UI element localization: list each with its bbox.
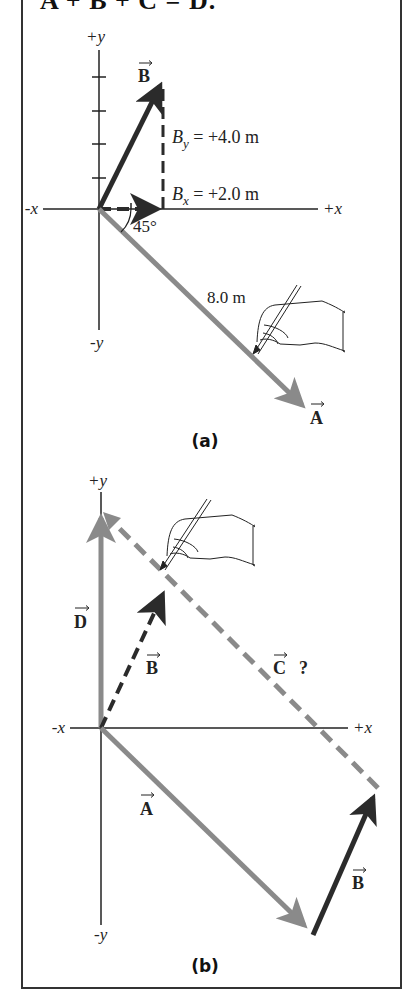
svg-text:B: B xyxy=(146,658,158,678)
minus-x-label-a: -x xyxy=(25,199,39,218)
plus-y-label-a: +y xyxy=(86,27,105,46)
hand-pencil-icon-b xyxy=(160,499,255,570)
bx-label: Bx = +2.0 m xyxy=(172,184,259,208)
svg-text:A: A xyxy=(140,799,153,819)
vector-b-arrow-b xyxy=(313,798,373,935)
panel-a: +y -y -x +x B By = +4.0 m Bx = +2.0 m 45… xyxy=(25,27,345,451)
unknown-question-mark: ? xyxy=(299,658,308,678)
vector-a-arrow-b xyxy=(101,728,304,925)
vector-c-arrowhead xyxy=(103,512,121,530)
hand-pencil-icon-a xyxy=(253,285,345,354)
caption-a: (a) xyxy=(191,431,218,451)
vector-a-label-a: A xyxy=(310,402,324,429)
svg-text:C: C xyxy=(273,658,286,678)
vector-a-arrow-a xyxy=(99,209,302,405)
vector-diagram: +y -y -x +x B By = +4.0 m Bx = +2.0 m 45… xyxy=(0,0,409,995)
panel-b: +y -y -x +x D B C ? A B xyxy=(52,471,378,976)
svg-text:A: A xyxy=(310,408,323,428)
svg-text:B: B xyxy=(138,66,150,86)
caption-b: (b) xyxy=(191,956,219,976)
angle-label: 45° xyxy=(133,217,157,236)
vector-b-label-a: B xyxy=(138,61,152,87)
vector-a-magnitude-label: 8.0 m xyxy=(207,288,246,307)
vector-b-dashed-label: B xyxy=(146,653,160,679)
vector-b-arrow-a xyxy=(99,86,160,209)
svg-text:B: B xyxy=(352,873,364,893)
vector-c-label: C ? xyxy=(273,653,308,679)
by-label: By = +4.0 m xyxy=(172,127,259,151)
minus-y-label-a: -y xyxy=(90,333,104,352)
vector-a-label-b: A xyxy=(140,793,154,820)
plus-x-label-b: +x xyxy=(353,718,372,737)
vector-b-label-b: B xyxy=(352,868,366,894)
plus-x-label-a: +x xyxy=(323,199,342,218)
plus-y-label-b: +y xyxy=(88,471,107,490)
svg-text:D: D xyxy=(74,612,87,632)
vector-d-label: D xyxy=(74,606,89,633)
minus-x-label-b: -x xyxy=(52,718,66,737)
minus-y-label-b: -y xyxy=(94,925,108,944)
